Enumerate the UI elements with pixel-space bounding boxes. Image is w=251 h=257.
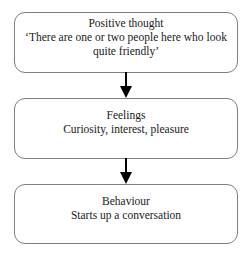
cbt-flowchart: Positive thought ‘There are one or two p… <box>0 0 251 257</box>
flow-node-behaviour: Behaviour Starts up a conversation <box>14 184 238 244</box>
arrow-down-icon <box>0 158 251 184</box>
flow-node-feelings: Feelings Curiosity, interest, pleasure <box>14 98 238 159</box>
flow-node-title: Positive thought <box>88 16 163 30</box>
arrow-down-icon <box>0 72 251 98</box>
flow-node-positive-thought: Positive thought ‘There are one or two p… <box>14 12 238 73</box>
arrow-feelings-to-behaviour <box>0 158 251 184</box>
arrow-thought-to-feelings <box>0 72 251 98</box>
flow-node-body: Curiosity, interest, pleasure <box>63 122 189 136</box>
flow-node-body: ‘There are one or two people here who lo… <box>19 30 233 58</box>
flow-node-title: Behaviour <box>102 194 150 208</box>
flow-node-body: Starts up a conversation <box>71 208 181 222</box>
flow-node-title: Feelings <box>107 108 146 122</box>
